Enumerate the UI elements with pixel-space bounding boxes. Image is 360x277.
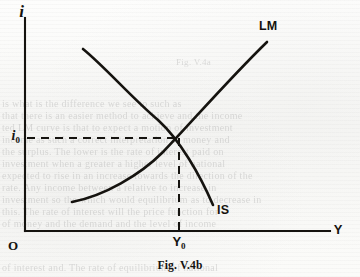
figure-caption: Fig. V.4b	[0, 259, 360, 271]
plot-area	[0, 0, 360, 277]
curve-is	[83, 49, 213, 205]
figure-is-lm-diagram: Fig. V.4ais what is the difference we se…	[0, 0, 360, 277]
